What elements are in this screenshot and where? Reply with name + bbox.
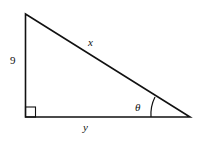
angle-label: θ bbox=[135, 101, 141, 113]
angle-arc bbox=[151, 97, 155, 117]
vertical-side-label: 9 bbox=[10, 54, 16, 66]
right-angle-marker bbox=[26, 107, 36, 117]
horizontal-side-label: y bbox=[82, 121, 88, 133]
hypotenuse-label: x bbox=[87, 36, 93, 48]
right-triangle-diagram: 9 x θ y bbox=[0, 0, 199, 142]
triangle bbox=[26, 14, 191, 117]
